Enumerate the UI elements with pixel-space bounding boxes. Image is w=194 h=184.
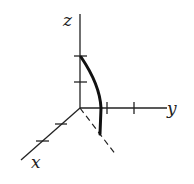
y-axis-label: y (166, 98, 177, 118)
dashed-projection-line (80, 108, 116, 155)
x-axis (21, 108, 80, 160)
x-axis-label: x (31, 152, 41, 172)
3d-axes-diagram: z y x (0, 0, 194, 184)
z-axis-label: z (62, 10, 73, 30)
space-curve (81, 57, 101, 134)
